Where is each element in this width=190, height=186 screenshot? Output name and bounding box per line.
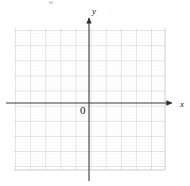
y-axis-label: y bbox=[92, 7, 96, 16]
coordinate-plane-canvas bbox=[0, 0, 190, 186]
origin-label: 0 bbox=[80, 105, 86, 116]
x-axis-label: x bbox=[180, 100, 184, 109]
coordinate-grid-figure: y x 0 bbox=[0, 0, 190, 186]
